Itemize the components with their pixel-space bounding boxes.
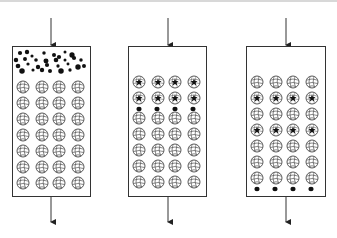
bead-icon: [133, 160, 145, 172]
solute-particle: [63, 50, 66, 53]
bead-icon: [17, 97, 29, 109]
loaded-bead-icon: [306, 124, 318, 136]
solute-particle: [16, 64, 21, 69]
column-1: [13, 18, 91, 222]
bead-icon: [287, 172, 299, 184]
bead-icon: [53, 81, 65, 93]
bead-icon: [133, 112, 145, 124]
loaded-bead-icon: [188, 76, 200, 88]
bead-icon: [72, 113, 84, 125]
solute-particle: [44, 59, 49, 64]
loaded-bead-icon: [251, 124, 263, 136]
bead-icon: [72, 145, 84, 157]
solute-particle: [26, 62, 29, 65]
bead-icon: [36, 161, 48, 173]
loaded-bead-icon: [169, 92, 181, 104]
eluted-particle: [290, 187, 295, 191]
solute-particle: [36, 65, 40, 69]
solute-particle: [19, 68, 25, 74]
loaded-bead-icon: [306, 92, 318, 104]
bead-icon: [251, 140, 263, 152]
solute-particle: [30, 54, 33, 57]
loaded-bead-icon: [188, 92, 200, 104]
solute-particle: [68, 68, 71, 71]
solute-particle: [14, 58, 18, 62]
bead-icon: [53, 177, 65, 189]
bead-icon: [17, 177, 29, 189]
bead-icon: [53, 113, 65, 125]
solute-particle: [172, 107, 177, 111]
bead-icon: [251, 172, 263, 184]
solute-particle: [42, 51, 45, 54]
solute-particle: [34, 58, 38, 62]
loaded-bead-icon: [133, 76, 145, 88]
bead-icon: [270, 76, 282, 88]
bead-icon: [53, 97, 65, 109]
solute-particle: [82, 64, 86, 68]
bead-icon: [287, 76, 299, 88]
bead-icon: [72, 129, 84, 141]
bead-icon: [152, 144, 164, 156]
bead-icon: [133, 176, 145, 188]
solute-particle: [31, 68, 34, 71]
bead-icon: [36, 97, 48, 109]
bead-icon: [188, 160, 200, 172]
bead-icon: [72, 177, 84, 189]
bead-icon: [133, 144, 145, 156]
bead-icon: [36, 81, 48, 93]
bead-icon: [72, 81, 84, 93]
solute-particle: [58, 68, 63, 73]
bead-icon: [169, 176, 181, 188]
solute-particle: [67, 63, 70, 66]
bead-icon: [53, 129, 65, 141]
loaded-bead-icon: [270, 92, 282, 104]
loaded-bead-icon: [270, 124, 282, 136]
bead-icon: [287, 140, 299, 152]
bead-icon: [17, 113, 29, 125]
bead-icon: [270, 172, 282, 184]
bead-icon: [188, 128, 200, 140]
eluted-particle: [272, 187, 277, 191]
solute-particle: [56, 64, 59, 67]
loaded-bead-icon: [152, 76, 164, 88]
bead-icon: [53, 145, 65, 157]
column-diagram: [0, 0, 337, 238]
bead-icon: [72, 97, 84, 109]
column-2: [129, 18, 207, 222]
bead-icon: [36, 177, 48, 189]
bead-icon: [17, 129, 29, 141]
bead-icon: [287, 156, 299, 168]
bead-icon: [188, 144, 200, 156]
bead-icon: [169, 144, 181, 156]
bead-icon: [306, 140, 318, 152]
solute-particle: [52, 53, 56, 57]
bead-icon: [17, 161, 29, 173]
loaded-bead-icon: [287, 124, 299, 136]
loaded-bead-icon: [251, 92, 263, 104]
solute-particle: [154, 107, 159, 111]
bead-icon: [133, 128, 145, 140]
bead-icon: [306, 76, 318, 88]
loaded-bead-icon: [133, 92, 145, 104]
solute-particle: [18, 51, 22, 55]
bead-icon: [152, 160, 164, 172]
loaded-bead-icon: [287, 92, 299, 104]
solute-particle: [48, 69, 52, 73]
solute-particle: [25, 50, 29, 54]
bead-icon: [270, 108, 282, 120]
bead-icon: [152, 128, 164, 140]
bead-icon: [270, 156, 282, 168]
column-3: [247, 18, 326, 222]
solute-particle: [190, 107, 195, 111]
bead-icon: [169, 160, 181, 172]
bead-icon: [251, 156, 263, 168]
bead-icon: [270, 140, 282, 152]
bead-icon: [188, 176, 200, 188]
bead-icon: [17, 145, 29, 157]
loaded-bead-icon: [152, 92, 164, 104]
bead-icon: [287, 108, 299, 120]
bead-icon: [36, 113, 48, 125]
bead-icon: [169, 112, 181, 124]
bead-icon: [53, 161, 65, 173]
bead-icon: [72, 161, 84, 173]
